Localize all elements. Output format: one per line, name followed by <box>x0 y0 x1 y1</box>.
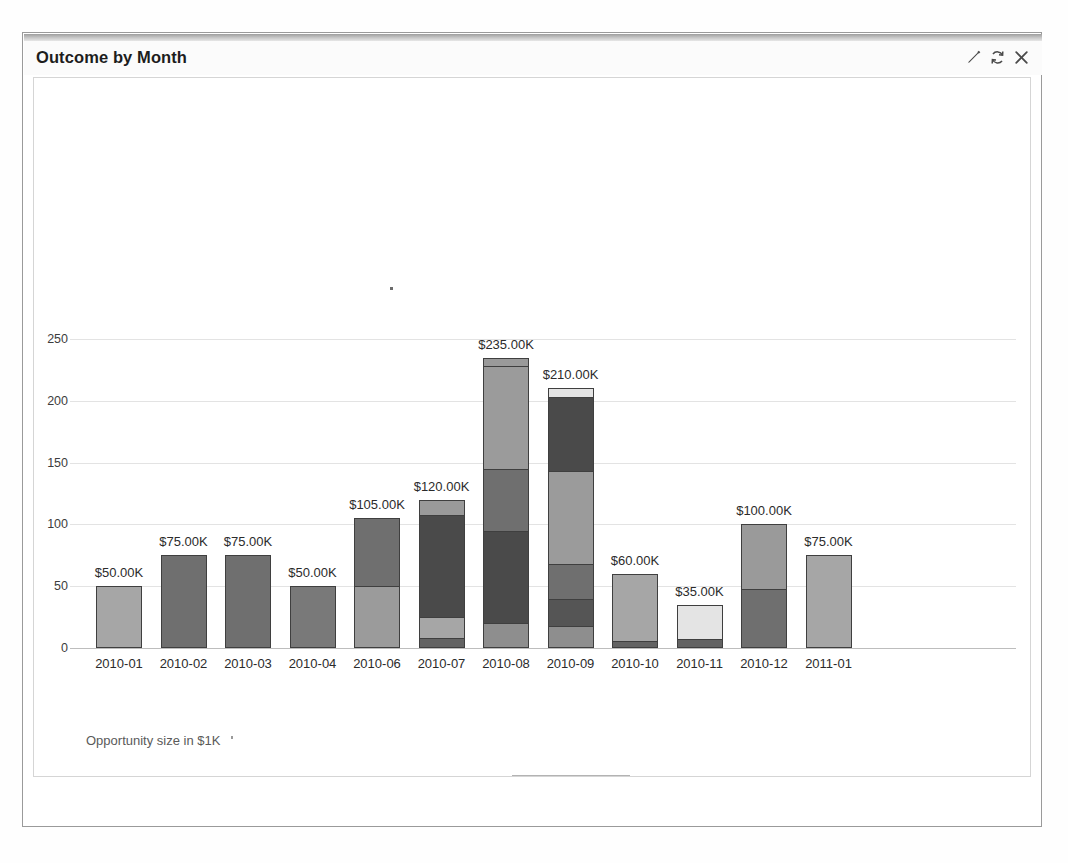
bar-column[interactable] <box>419 500 465 648</box>
bar-segment[interactable] <box>354 518 400 586</box>
close-icon[interactable] <box>1013 49 1030 66</box>
refresh-icon[interactable] <box>989 49 1006 66</box>
outcome-by-month-panel: Outcome by Month <box>22 32 1042 827</box>
bar-segment[interactable] <box>483 531 529 624</box>
bar-segment[interactable] <box>354 586 400 648</box>
bar-segment[interactable] <box>483 469 529 531</box>
bar-column[interactable] <box>483 358 529 648</box>
bar-segment[interactable] <box>161 555 207 648</box>
bar-value-label: $60.00K <box>575 553 695 568</box>
panel-actions <box>965 49 1030 66</box>
bar-segment[interactable] <box>96 586 142 648</box>
chart-container: 050100150200250 $50.00K$75.00K$75.00K$50… <box>33 77 1031 777</box>
bar-value-label: $210.00K <box>511 367 631 382</box>
bar-value-label: $100.00K <box>704 503 824 518</box>
bar-segment[interactable] <box>548 471 594 564</box>
panel-drag-handle[interactable] <box>24 34 1042 41</box>
bar-value-label: $75.00K <box>769 534 889 549</box>
bar-column[interactable] <box>161 555 207 648</box>
bar-segment[interactable] <box>548 626 594 648</box>
bar-segment[interactable] <box>548 397 594 471</box>
bar-segment[interactable] <box>677 605 723 640</box>
bar-column[interactable] <box>290 586 336 648</box>
screen: Outcome by Month <box>0 0 1068 863</box>
bar-value-label: $235.00K <box>446 337 566 352</box>
page-title: Outcome by Month <box>36 48 187 67</box>
bar-segment[interactable] <box>419 617 465 638</box>
bar-column[interactable] <box>677 605 723 648</box>
artifact-dot-2 <box>231 736 233 739</box>
bar-value-label: $75.00K <box>188 534 308 549</box>
bar-series: $50.00K$75.00K$75.00K$50.00K$105.00K$120… <box>34 78 1031 703</box>
bar-segment[interactable] <box>483 623 529 648</box>
artifact-dot <box>390 287 393 290</box>
bar-segment[interactable] <box>548 388 594 397</box>
bar-segment[interactable] <box>419 500 465 515</box>
bar-column[interactable] <box>548 388 594 648</box>
bar-column[interactable] <box>354 518 400 648</box>
bar-column[interactable] <box>806 555 852 648</box>
bar-segment[interactable] <box>419 638 465 648</box>
chart-plot-area: 050100150200250 $50.00K$75.00K$75.00K$50… <box>34 78 1031 703</box>
bar-segment[interactable] <box>741 589 787 648</box>
bar-segment[interactable] <box>548 599 594 626</box>
panel-titlebar: Outcome by Month <box>24 41 1042 75</box>
legend-splitter-handle[interactable] <box>512 775 630 777</box>
bar-segment[interactable] <box>612 641 658 648</box>
bar-segment[interactable] <box>677 639 723 648</box>
axis-note: Opportunity size in $1K <box>86 733 220 748</box>
bar-segment[interactable] <box>419 515 465 618</box>
edit-icon[interactable] <box>965 49 982 66</box>
bar-segment[interactable] <box>483 358 529 367</box>
bar-segment[interactable] <box>806 555 852 648</box>
bar-segment[interactable] <box>548 564 594 599</box>
x-axis-tick-label: 2011-01 <box>786 656 872 671</box>
bar-segment[interactable] <box>290 586 336 648</box>
bar-column[interactable] <box>96 586 142 648</box>
